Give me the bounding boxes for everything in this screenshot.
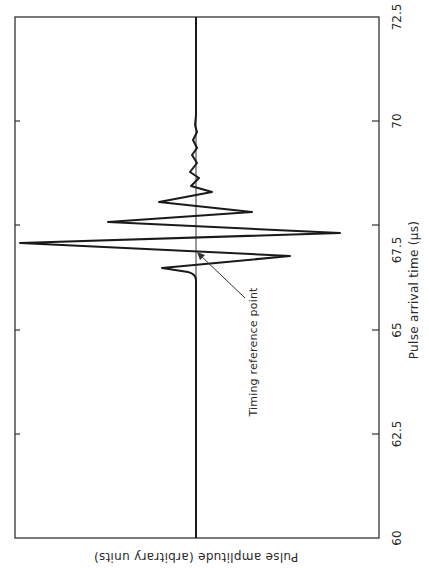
- amplitude-axis-title: Pulse amplitude (arbitrary units): [94, 550, 299, 564]
- pulse-waveform: [20, 17, 340, 538]
- time-tick-labels: 60 62.5 65 67.5 70 72.5: [390, 4, 404, 546]
- right-ticks: [372, 121, 379, 434]
- tick-label-67-5: 67.5: [390, 237, 404, 264]
- tick-label-60: 60: [390, 530, 404, 545]
- tick-label-62-5: 62.5: [390, 421, 404, 448]
- tick-label-72-5: 72.5: [390, 4, 404, 31]
- time-axis-title: Pulse arrival time (μs): [407, 221, 421, 359]
- timing-reference-arrow: [197, 252, 245, 298]
- left-ticks: [15, 121, 20, 434]
- timing-reference-label: Timing reference point: [247, 287, 260, 418]
- pulse-waveform-chart: 60 62.5 65 67.5 70 72.5 Pulse arrival ti…: [0, 0, 429, 568]
- tick-label-65: 65: [390, 322, 404, 337]
- tick-label-70: 70: [390, 113, 404, 128]
